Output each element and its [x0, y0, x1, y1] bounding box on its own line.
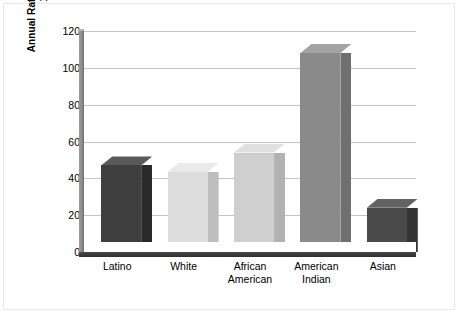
- y-axis-tick-label: 120: [40, 25, 80, 37]
- plot-area: [84, 31, 416, 252]
- gridline: [84, 68, 416, 69]
- gridline: [84, 142, 416, 143]
- y-axis-tick-label: 60: [40, 136, 80, 148]
- bar[interactable]: [300, 53, 340, 252]
- x-axis-baseline: [79, 252, 416, 257]
- bar-side-face: [340, 53, 351, 252]
- bar[interactable]: [234, 153, 274, 252]
- y-axis-tick-label: 0: [40, 246, 80, 258]
- bar-front-face: [300, 53, 340, 252]
- y-axis-tick-label: 80: [40, 99, 80, 111]
- y-axis-tick-label: 100: [40, 62, 80, 74]
- y-axis-tick-label: 20: [40, 209, 80, 221]
- floor-plane: [84, 242, 416, 252]
- bar-front-face: [101, 165, 141, 252]
- bar[interactable]: [101, 165, 141, 252]
- bar-front-face: [168, 172, 208, 252]
- bar-front-face: [234, 153, 274, 252]
- bar-side-face: [274, 153, 285, 252]
- x-axis-tick-label: Asian: [343, 260, 423, 273]
- gridline: [84, 105, 416, 106]
- y-axis-tick-label: 40: [40, 172, 80, 184]
- bar[interactable]: [168, 172, 208, 252]
- gridline: [84, 31, 416, 32]
- x-axis-tick-labels: LatinoWhiteAfrican AmericanAmerican Indi…: [84, 260, 416, 306]
- y-axis-tick-labels: 020406080100120: [36, 31, 80, 252]
- bar-side-face: [141, 165, 152, 252]
- chart-figure: Annual Rate per 1,000 Persons, 1993–2000…: [0, 0, 458, 313]
- bar-side-face: [208, 172, 219, 252]
